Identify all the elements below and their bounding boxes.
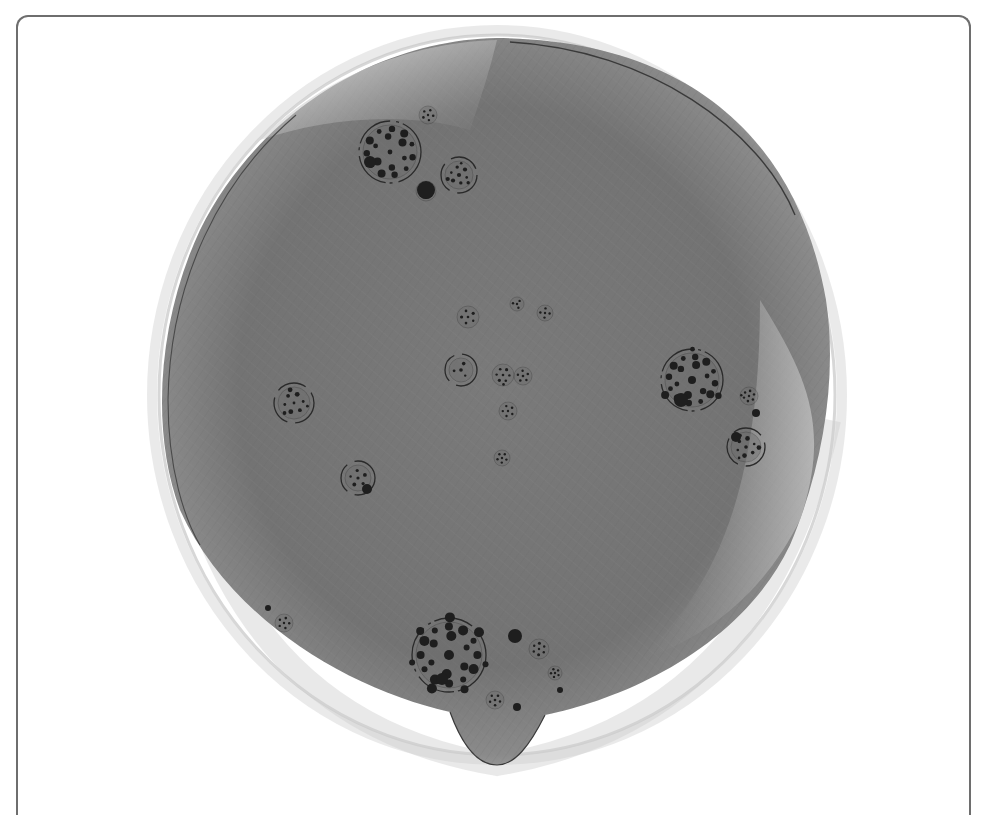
node xyxy=(445,623,453,631)
node xyxy=(743,396,745,398)
node xyxy=(279,619,281,621)
node xyxy=(366,137,374,145)
node xyxy=(464,374,466,376)
node xyxy=(498,453,500,455)
node xyxy=(352,483,356,487)
node xyxy=(518,300,520,302)
node xyxy=(521,370,523,372)
node xyxy=(505,415,507,417)
node xyxy=(502,374,505,377)
node xyxy=(288,409,293,414)
node xyxy=(757,445,762,450)
node xyxy=(499,368,502,371)
node xyxy=(668,386,673,391)
node xyxy=(288,622,290,624)
node xyxy=(378,170,386,178)
node xyxy=(444,650,454,660)
node xyxy=(508,374,510,376)
node xyxy=(429,109,431,111)
node xyxy=(501,461,503,463)
node xyxy=(738,457,741,460)
node xyxy=(554,672,556,674)
node xyxy=(446,631,456,641)
node xyxy=(457,173,461,177)
node xyxy=(747,400,750,403)
node xyxy=(543,651,545,653)
hub-node xyxy=(364,156,376,168)
node xyxy=(451,178,455,182)
node xyxy=(389,126,395,132)
node xyxy=(544,312,546,314)
node xyxy=(474,627,484,637)
cluster-bottom-small-b xyxy=(548,666,562,680)
node xyxy=(463,167,467,171)
node xyxy=(364,150,370,156)
node xyxy=(471,638,477,644)
node xyxy=(507,410,509,412)
cluster-bottom-small-a xyxy=(529,639,549,659)
cluster-bottom-left-small xyxy=(275,614,293,632)
node xyxy=(519,379,522,382)
node xyxy=(285,617,288,620)
node xyxy=(550,672,552,674)
node xyxy=(538,642,541,645)
node xyxy=(446,177,450,181)
node xyxy=(751,451,755,455)
cluster-center-e xyxy=(514,367,532,385)
node xyxy=(498,379,501,382)
node xyxy=(283,622,285,624)
node xyxy=(501,457,503,459)
node xyxy=(295,392,300,397)
cluster-center-g xyxy=(494,450,510,466)
node xyxy=(502,383,505,386)
node xyxy=(279,625,281,627)
node xyxy=(416,627,424,635)
node xyxy=(284,627,286,629)
node xyxy=(752,398,754,400)
node xyxy=(522,375,525,378)
hub-node xyxy=(674,393,688,407)
node xyxy=(391,172,397,178)
cluster-center-d xyxy=(492,364,514,386)
node xyxy=(464,645,470,651)
node xyxy=(544,307,546,309)
node xyxy=(505,458,507,460)
hub-node xyxy=(265,605,271,611)
node xyxy=(465,322,468,325)
node xyxy=(675,382,680,387)
node xyxy=(459,368,463,372)
node xyxy=(511,413,513,415)
node xyxy=(362,482,365,485)
node xyxy=(742,453,747,458)
node xyxy=(460,162,463,165)
node xyxy=(459,181,462,184)
node xyxy=(419,636,429,646)
node xyxy=(678,366,684,372)
hub-node xyxy=(731,432,741,442)
node xyxy=(495,373,497,375)
hub-node xyxy=(557,687,563,693)
node xyxy=(706,390,714,398)
node xyxy=(533,645,535,647)
node xyxy=(467,316,470,319)
node xyxy=(404,166,409,171)
node xyxy=(539,311,541,313)
node xyxy=(409,660,415,666)
node xyxy=(483,661,489,667)
node xyxy=(456,165,459,168)
node xyxy=(377,129,382,134)
node xyxy=(700,388,706,394)
node xyxy=(496,458,498,460)
node xyxy=(356,469,359,472)
node xyxy=(422,116,425,119)
node xyxy=(461,685,469,693)
node xyxy=(692,361,700,369)
cluster-center-f xyxy=(499,402,517,420)
hub-node xyxy=(513,703,521,711)
node xyxy=(737,449,740,452)
node xyxy=(557,674,559,676)
hub-node xyxy=(417,181,435,199)
node xyxy=(715,393,721,399)
hub-node xyxy=(752,409,760,417)
node xyxy=(666,374,672,380)
